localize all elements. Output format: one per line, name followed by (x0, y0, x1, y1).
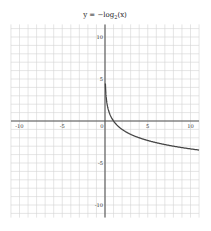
x-tick-label: 10 (187, 123, 194, 129)
y-tick-label: 10 (96, 34, 103, 40)
y-tick-label: 5 (100, 76, 103, 82)
x-tick-label: -10 (15, 123, 23, 129)
y-tick-label: -10 (95, 202, 103, 208)
axes (11, 24, 199, 217)
chart-title: y = −log2(x) (82, 11, 127, 20)
x-tick-label: 5 (146, 123, 149, 129)
x-tick-label: -5 (60, 123, 65, 129)
chart: y = −log2(x) -10-50510 105-5-10 (0, 0, 211, 231)
function-curve (105, 83, 199, 150)
y-tick-label: -5 (98, 160, 103, 166)
x-tick-label: 0 (100, 123, 103, 129)
